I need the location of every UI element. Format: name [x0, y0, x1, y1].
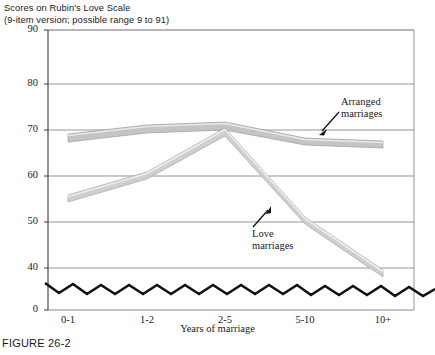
arrow-line-love	[253, 210, 268, 227]
chart-axes	[44, 30, 414, 310]
figure-caption: FIGURE 26-2	[2, 337, 71, 349]
annotation-love-line-2: marriages	[252, 240, 293, 252]
y-tick-label-0: 0	[12, 303, 38, 314]
x-axis-title: Years of marriage	[0, 323, 435, 334]
y-tick-label-70: 70	[12, 123, 38, 134]
love-scale-line-chart	[0, 0, 435, 355]
y-tick-label-40: 40	[12, 261, 38, 272]
love-marriages-band	[68, 128, 383, 277]
y-tick-label-90: 90	[12, 23, 38, 34]
annotation-love-line-1: Love	[252, 228, 293, 240]
y-tick-label-80: 80	[12, 77, 38, 88]
chart-title-line-1: Scores on Rubin's Love Scale	[4, 3, 131, 13]
annotation-arranged-marriages: Arranged marriages	[341, 96, 382, 120]
annotation-arranged-line-1: Arranged	[341, 96, 382, 108]
arrow-head-love	[266, 206, 271, 214]
annotation-arranged-line-2: marriages	[341, 108, 382, 120]
y-tick-label-50: 50	[12, 215, 38, 226]
y-tick-label-60: 60	[12, 169, 38, 180]
love-marriages-highlight	[68, 130, 383, 272]
axis-break-zigzag	[45, 283, 435, 296]
axis-break-zigzag-path	[45, 283, 435, 296]
annotation-love-marriages: Love marriages	[252, 228, 293, 252]
series-love-marriages	[68, 128, 383, 277]
arrow-line-arranged	[322, 112, 339, 131]
